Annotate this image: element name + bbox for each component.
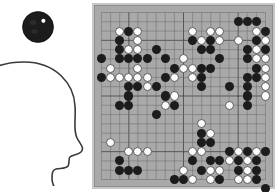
black-stone: [252, 73, 261, 82]
white-stone: [243, 166, 252, 175]
black-stone: [170, 101, 179, 110]
black-stone: [188, 36, 197, 45]
white-stone: [188, 73, 197, 82]
white-stone: [261, 64, 270, 73]
black-stone: [197, 73, 206, 82]
black-stone: [124, 101, 133, 110]
black-stone: [243, 82, 252, 91]
black-stone: [252, 36, 261, 45]
white-stone: [143, 147, 152, 156]
black-stone: [261, 27, 270, 36]
white-stone: [252, 54, 261, 63]
black-stone: [206, 45, 215, 54]
white-stone: [261, 54, 270, 63]
figure-scene: [0, 0, 278, 192]
black-stone: [243, 54, 252, 63]
white-stone: [234, 36, 243, 45]
white-stone: [243, 175, 252, 184]
white-stone: [225, 156, 234, 165]
black-stone: [243, 17, 252, 26]
black-stone: [124, 91, 133, 100]
black-stone: [215, 175, 224, 184]
black-stone: [133, 166, 142, 175]
white-stone: [252, 147, 261, 156]
white-stone: [215, 36, 224, 45]
black-stone: [197, 166, 206, 175]
black-stone: [197, 64, 206, 73]
black-stone: [115, 166, 124, 175]
black-stone: [152, 45, 161, 54]
black-stone: [252, 156, 261, 165]
white-stone: [133, 27, 142, 36]
go-stone-layer: [94, 5, 273, 187]
white-stone: [124, 147, 133, 156]
white-stone: [179, 54, 188, 63]
black-stone: [252, 64, 261, 73]
white-stone: [197, 36, 206, 45]
white-stone: [188, 147, 197, 156]
black-stone: [115, 101, 124, 110]
black-stone: [152, 82, 161, 91]
white-stone: [179, 64, 188, 73]
human-head-profile-icon: [0, 58, 90, 186]
white-stone: [234, 147, 243, 156]
black-stone: [261, 147, 270, 156]
black-stone: [179, 175, 188, 184]
black-stone: [234, 156, 243, 165]
white-stone: [115, 73, 124, 82]
black-stone: [97, 73, 106, 82]
white-stone: [188, 27, 197, 36]
black-stone: [252, 17, 261, 26]
black-stone: [115, 36, 124, 45]
black-stone: [170, 64, 179, 73]
black-stone: [243, 45, 252, 54]
black-stone: [161, 91, 170, 100]
white-stone: [170, 91, 179, 100]
black-stone: [243, 101, 252, 110]
black-stone: [197, 82, 206, 91]
white-stone: [197, 147, 206, 156]
black-stone: [206, 138, 215, 147]
white-stone: [133, 36, 142, 45]
white-stone: [133, 73, 142, 82]
white-stone: [124, 73, 133, 82]
white-stone: [261, 91, 270, 100]
black-stone: [124, 54, 133, 63]
observer-illustration: [0, 0, 92, 192]
black-stone: [225, 82, 234, 91]
black-stone: [197, 129, 206, 138]
black-stone: [143, 54, 152, 63]
black-stone: [243, 73, 252, 82]
white-stone: [206, 175, 215, 184]
black-stone: [161, 54, 170, 63]
white-stone: [143, 82, 152, 91]
white-stone: [261, 82, 270, 91]
black-stone: [234, 166, 243, 175]
white-stone: [143, 73, 152, 82]
white-stone: [106, 138, 115, 147]
black-stone: [124, 82, 133, 91]
black-stone: [243, 147, 252, 156]
black-stone: [261, 45, 270, 54]
white-stone: [215, 27, 224, 36]
black-stone: [152, 110, 161, 119]
black-stone: [115, 45, 124, 54]
black-stone: [234, 17, 243, 26]
white-stone: [133, 64, 142, 73]
black-stone: [133, 54, 142, 63]
white-stone: [234, 175, 243, 184]
white-stone: [133, 45, 142, 54]
white-stone: [133, 147, 142, 156]
white-stone: [206, 166, 215, 175]
black-go-stone-icon: [21, 10, 55, 44]
white-stone: [252, 45, 261, 54]
black-stone: [97, 54, 106, 63]
black-stone: [133, 82, 142, 91]
white-stone: [115, 27, 124, 36]
black-stone: [206, 36, 215, 45]
go-board[interactable]: [92, 3, 275, 189]
black-stone: [243, 91, 252, 100]
white-stone: [225, 101, 234, 110]
black-stone: [206, 64, 215, 73]
black-stone: [252, 175, 261, 184]
